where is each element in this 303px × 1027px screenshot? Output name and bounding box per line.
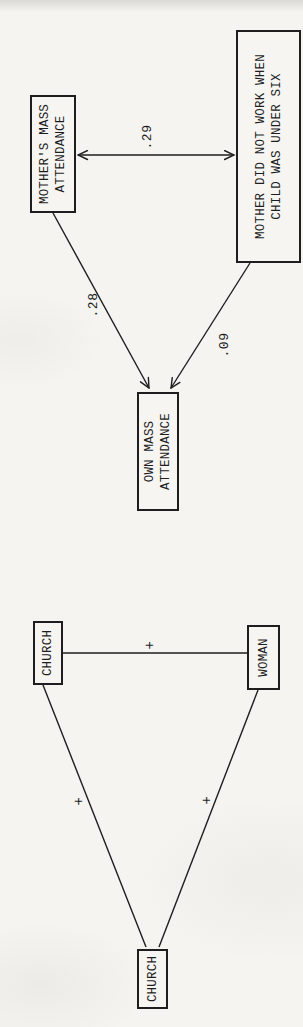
edge-church-church: [43, 685, 146, 947]
node-text-line: MOTHER DID NOT WORK WHEN: [253, 54, 269, 239]
node-text-line: ATTENDANCE: [53, 116, 69, 193]
node-text-line: MOTHER'S MASS: [37, 104, 53, 204]
sign-label-church-woman: +: [142, 641, 158, 650]
node-woman: WOMAN: [247, 625, 280, 690]
scan-edge-shading: [0, 0, 303, 12]
node-church-left: CHURCH: [137, 949, 168, 1009]
node-mothers-mass-attendance: MOTHER'S MASS ATTENDANCE: [30, 95, 76, 213]
path-arrow-mother-work-to-own: [171, 263, 250, 388]
node-own-mass-attendance: OWN MASS ATTENDANCE: [137, 392, 179, 511]
coefficient-label-09: .09: [217, 333, 232, 358]
coefficient-label-28: .28: [86, 293, 101, 318]
sign-label-church-church: +: [71, 797, 87, 806]
scanned-figure-page: MOTHER'S MASS ATTENDANCE MOTHER DID NOT …: [0, 0, 303, 1027]
sign-label-woman-church: +: [199, 796, 215, 805]
path-arrow-mothers-mass-to-own: [53, 213, 149, 388]
edge-woman-church: [159, 690, 258, 947]
node-text-line: CHILD WAS UNDER SIX: [269, 73, 285, 219]
node-mother-did-not-work: MOTHER DID NOT WORK WHEN CHILD WAS UNDER…: [236, 30, 301, 263]
coefficient-label-29: .29: [140, 125, 155, 150]
node-text-line: ATTENDANCE: [158, 413, 174, 490]
rotated-diagram-canvas: MOTHER'S MASS ATTENDANCE MOTHER DID NOT …: [0, 0, 303, 1027]
node-church-top: CHURCH: [33, 621, 63, 685]
node-text-line: OWN MASS: [142, 421, 158, 483]
